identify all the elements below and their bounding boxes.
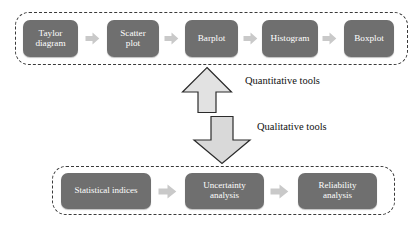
node-boxplot-label: Boxplot [354, 34, 384, 44]
node-histogram-label: Histogram [271, 34, 310, 44]
node-scatter-plot[interactable]: Scatter plot [107, 20, 159, 57]
flow-label-quantitative: Quantitative tools [245, 75, 320, 86]
right-arrow-icon [270, 183, 289, 200]
right-arrow-icon [322, 31, 337, 46]
node-reliability-analysis[interactable]: Reliability analysis [298, 173, 377, 209]
node-uncertainty-analysis[interactable]: Uncertainty analysis [185, 173, 264, 209]
node-histogram[interactable]: Histogram [262, 20, 318, 57]
up-arrow-icon [181, 66, 233, 114]
flow-label-qualitative: Qualitative tools [257, 121, 327, 132]
node-taylor-diagram[interactable]: Taylor diagram [23, 20, 78, 57]
node-boxplot[interactable]: Boxplot [344, 20, 394, 57]
diagram-canvas: Taylor diagram Scatter plot Barplot Hist… [0, 0, 420, 231]
node-statistical-indices[interactable]: Statistical indices [61, 173, 151, 209]
node-statistical-indices-label: Statistical indices [74, 186, 137, 196]
node-taylor-diagram-label: Taylor diagram [35, 29, 65, 49]
down-arrow-icon [192, 115, 252, 165]
node-reliability-analysis-label: Reliability analysis [319, 181, 357, 200]
node-scatter-plot-label: Scatter plot [120, 29, 146, 49]
right-arrow-icon [164, 31, 179, 46]
right-arrow-icon [85, 31, 100, 46]
node-barplot[interactable]: Barplot [185, 20, 238, 57]
right-arrow-icon [158, 183, 177, 200]
right-arrow-icon [243, 31, 258, 46]
node-uncertainty-analysis-label: Uncertainty analysis [203, 181, 245, 200]
node-barplot-label: Barplot [198, 34, 226, 44]
